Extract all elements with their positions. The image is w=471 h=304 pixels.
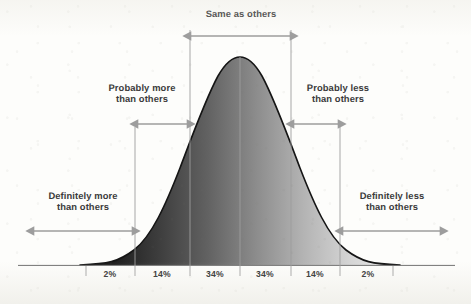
pct-label: 14%	[146, 269, 178, 279]
label-same-as-others: Same as others	[180, 8, 302, 19]
label-probably-less-than-others: Probably less than others	[292, 82, 384, 104]
pct-label: 2%	[352, 269, 384, 279]
label-definitely-less-than-others: Definitely less than others	[340, 190, 444, 212]
pct-label: 34%	[199, 269, 231, 279]
label-probably-more-than-others: Probably more than others	[94, 82, 190, 104]
pct-label: 34%	[249, 269, 281, 279]
label-definitely-more-than-others: Definitely more than others	[31, 190, 135, 212]
outer-ticks	[86, 266, 393, 276]
pct-label: 14%	[299, 269, 331, 279]
pct-label: 2%	[94, 269, 126, 279]
bell-curve-figure: Same as others Probably more than others…	[0, 0, 471, 304]
bell-curve-svg	[0, 0, 471, 304]
